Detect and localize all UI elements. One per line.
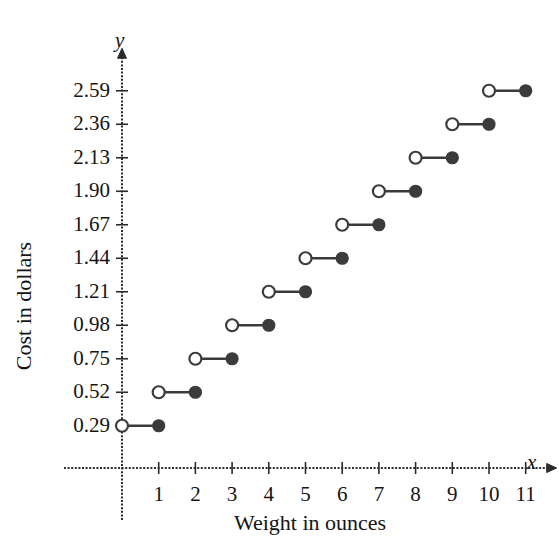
step-4-open-endpoint [226, 319, 238, 331]
x-tick-label-8: 8 [396, 484, 436, 505]
step-9-closed-endpoint [446, 152, 458, 164]
x-tick-label-1: 1 [139, 484, 179, 505]
y-tick-label-1.90: 1.90 [42, 180, 110, 201]
step-5-closed-endpoint [300, 286, 312, 298]
step-11-closed-endpoint [520, 85, 532, 97]
x-tick-label-4: 4 [249, 484, 289, 505]
ticks-group [116, 91, 526, 474]
x-tick-label-9: 9 [432, 484, 472, 505]
x-tick-label-6: 6 [322, 484, 362, 505]
step-6-open-endpoint [300, 252, 312, 264]
x-axis-title: Weight in ounces [190, 512, 430, 534]
step-7-closed-endpoint [373, 219, 385, 231]
x-axis-letter: x [527, 452, 536, 473]
step-4-closed-endpoint [263, 319, 275, 331]
y-tick-label-0.75: 0.75 [42, 348, 110, 369]
step-1-closed-endpoint [153, 420, 165, 432]
y-tick-label-1.21: 1.21 [42, 281, 110, 302]
y-tick-label-0.52: 0.52 [42, 381, 110, 402]
step-9-open-endpoint [410, 152, 422, 164]
step-7-open-endpoint [336, 219, 348, 231]
y-tick-label-2.59: 2.59 [42, 80, 110, 101]
step-2-closed-endpoint [189, 386, 201, 398]
step-3-closed-endpoint [226, 353, 238, 365]
x-tick-label-5: 5 [286, 484, 326, 505]
x-tick-label-10: 10 [469, 484, 509, 505]
x-tick-label-11: 11 [506, 484, 546, 505]
step-5-open-endpoint [263, 286, 275, 298]
y-tick-label-1.67: 1.67 [42, 214, 110, 235]
x-axis-arrow-icon [547, 464, 557, 473]
x-tick-label-7: 7 [359, 484, 399, 505]
y-tick-label-0.29: 0.29 [42, 415, 110, 436]
x-tick-label-3: 3 [212, 484, 252, 505]
chart-page: 0.290.520.750.981.211.441.671.902.132.36… [0, 0, 559, 554]
step-1-open-endpoint [116, 420, 128, 432]
y-tick-label-0.98: 0.98 [42, 314, 110, 335]
step-8-closed-endpoint [410, 185, 422, 197]
step-segments-group [116, 85, 532, 432]
step-10-open-endpoint [446, 118, 458, 130]
step-8-open-endpoint [373, 185, 385, 197]
step-3-open-endpoint [189, 353, 201, 365]
y-axis-letter: y [115, 30, 124, 51]
step-11-open-endpoint [483, 85, 495, 97]
step-6-closed-endpoint [336, 252, 348, 264]
y-tick-label-1.44: 1.44 [42, 247, 110, 268]
axes-group [64, 48, 557, 520]
y-tick-label-2.36: 2.36 [42, 113, 110, 134]
step-10-closed-endpoint [483, 118, 495, 130]
x-tick-label-2: 2 [175, 484, 215, 505]
y-tick-label-2.13: 2.13 [42, 147, 110, 168]
y-axis-title: Cost in dollars [13, 206, 35, 406]
step-2-open-endpoint [153, 386, 165, 398]
